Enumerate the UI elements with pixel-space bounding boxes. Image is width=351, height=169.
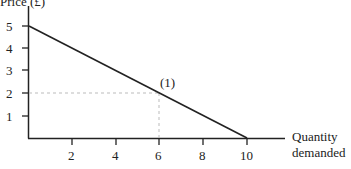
- y-axis-label: Price (£): [0, 0, 45, 9]
- point-annotation: (1): [160, 75, 175, 90]
- svg-text:6: 6: [155, 148, 162, 163]
- x-axis-label-line1: Quantity: [292, 129, 338, 144]
- svg-text:5: 5: [6, 19, 13, 34]
- x-axis-label-line2: demanded: [292, 145, 346, 160]
- svg-text:8: 8: [199, 148, 206, 163]
- demand-line: [29, 26, 247, 138]
- svg-text:4: 4: [112, 148, 119, 163]
- svg-text:2: 2: [6, 86, 13, 101]
- svg-text:3: 3: [6, 63, 13, 78]
- y-tick-labels: 5 4 3 2 1: [6, 19, 13, 124]
- demand-chart: Price (£) 5 4 3 2 1 2 4 6 8 10 Quantity …: [0, 0, 351, 169]
- svg-text:1: 1: [6, 109, 13, 124]
- svg-text:10: 10: [240, 148, 253, 163]
- x-tick-labels: 2 4 6 8 10: [68, 148, 253, 163]
- svg-text:2: 2: [68, 148, 75, 163]
- svg-text:4: 4: [6, 41, 13, 56]
